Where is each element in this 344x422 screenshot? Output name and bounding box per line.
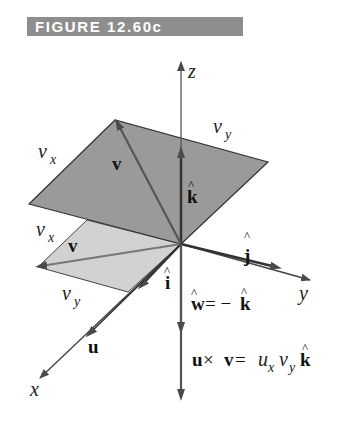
x-axis-label: x bbox=[29, 378, 39, 400]
lower-v-label: v bbox=[68, 235, 78, 256]
cross-product-label: u × v = u x v y ^ k bbox=[192, 340, 311, 375]
svg-text:= −: = − bbox=[205, 293, 231, 314]
svg-text:x: x bbox=[267, 360, 275, 375]
svg-text:^: ^ bbox=[188, 177, 194, 192]
lower-vx-label: v x bbox=[36, 218, 55, 245]
svg-text:y: y bbox=[223, 127, 232, 142]
svg-text:x: x bbox=[49, 152, 57, 167]
z-axis-label: z bbox=[187, 60, 196, 82]
svg-text:v: v bbox=[279, 348, 288, 370]
j-hat-label: j ^ bbox=[243, 228, 250, 266]
svg-text:×: × bbox=[203, 349, 214, 370]
svg-text:^: ^ bbox=[164, 263, 170, 278]
y-axis-label: y bbox=[297, 282, 308, 305]
upper-v-label: v bbox=[112, 153, 122, 174]
svg-text:v: v bbox=[36, 218, 45, 240]
svg-text:y: y bbox=[287, 360, 296, 375]
svg-text:w: w bbox=[191, 293, 205, 314]
svg-text:k: k bbox=[300, 349, 311, 370]
lower-vy-label: v y bbox=[62, 282, 81, 309]
svg-text:=: = bbox=[235, 349, 246, 370]
svg-text:v: v bbox=[62, 282, 71, 304]
j-hat-vector bbox=[181, 244, 276, 267]
u-label: u bbox=[88, 336, 99, 357]
svg-text:j: j bbox=[243, 245, 250, 266]
svg-text:x: x bbox=[47, 230, 55, 245]
svg-text:u: u bbox=[192, 349, 203, 370]
w-equals-neg-k-label: ^ w = − ^ k bbox=[191, 284, 251, 314]
svg-text:y: y bbox=[72, 294, 81, 309]
upper-vy-label: v y bbox=[213, 115, 232, 142]
svg-text:v: v bbox=[224, 349, 234, 370]
svg-text:u: u bbox=[258, 348, 268, 370]
upper-vx-label: v x bbox=[38, 140, 57, 167]
svg-text:v: v bbox=[213, 115, 222, 137]
svg-text:k: k bbox=[240, 293, 251, 314]
svg-text:v: v bbox=[38, 140, 47, 162]
svg-text:^: ^ bbox=[244, 228, 250, 243]
cross-product-diagram: z y x v x v y v k ^ v x v v y j ^ i ^ u … bbox=[0, 0, 344, 422]
i-hat-label: i ^ bbox=[164, 263, 170, 293]
